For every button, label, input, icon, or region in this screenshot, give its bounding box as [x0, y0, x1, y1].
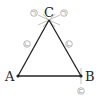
- mark-c-left: ㄱ: [31, 9, 38, 16]
- side-bc: [49, 20, 81, 76]
- svg-text:ㄴ: ㄴ: [24, 40, 30, 47]
- svg-text:ㄱ: ㄱ: [61, 9, 67, 16]
- svg-text:ㄷ: ㄷ: [78, 87, 84, 94]
- vertex-label-a: A: [4, 69, 15, 84]
- point-b: [79, 74, 82, 77]
- mark-b-below: ㄷ: [78, 87, 85, 94]
- svg-text:ㄱ: ㄱ: [31, 9, 37, 16]
- point-a: [16, 74, 19, 77]
- triangle-diagram: A B C ㄱ ㄱ ㄴ ㄴ ㄷ: [0, 0, 101, 105]
- mark-side-bc: ㄴ: [66, 40, 73, 47]
- mark-c-right: ㄱ: [61, 9, 68, 16]
- vertex-label-b: B: [85, 69, 95, 84]
- mark-side-ac: ㄴ: [24, 40, 31, 47]
- side-ac: [18, 20, 49, 76]
- vertex-label-c: C: [44, 5, 54, 20]
- svg-text:ㄴ: ㄴ: [66, 40, 72, 47]
